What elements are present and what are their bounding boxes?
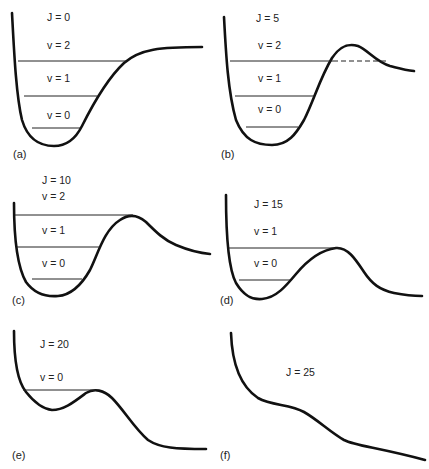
panel-label-b: (b) bbox=[221, 148, 234, 160]
panel-label-d: (d) bbox=[220, 294, 233, 306]
panel-label-c: (c) bbox=[12, 294, 25, 306]
v-label-a-2: v = 2 bbox=[47, 39, 70, 51]
v-label-b-1: v = 1 bbox=[258, 72, 281, 84]
v-label-c-2: v = 2 bbox=[42, 190, 65, 202]
v-label-a-0: v = 0 bbox=[47, 109, 70, 121]
j-label-f: J = 25 bbox=[286, 366, 315, 378]
v-label-c-1: v = 1 bbox=[42, 224, 65, 236]
v-label-b-2: v = 2 bbox=[258, 39, 281, 51]
panel-d: J = 15 v = 1 v = 0 (d) bbox=[220, 195, 422, 306]
v-label-c-0: v = 0 bbox=[42, 257, 65, 269]
potential-curve-c bbox=[14, 203, 210, 296]
v-label-e-0: v = 0 bbox=[40, 371, 63, 383]
panel-e: J = 20 v = 0 (e) bbox=[12, 331, 206, 461]
potential-curve-b bbox=[224, 17, 414, 145]
potential-curves-figure: J = 0 v = 2 v = 1 v = 0 (a) J = 5 v = 2 … bbox=[0, 0, 429, 469]
panel-label-a: (a) bbox=[13, 148, 26, 160]
potential-curve-d bbox=[226, 195, 422, 299]
potential-curve-a bbox=[12, 13, 202, 146]
v-label-d-1: v = 1 bbox=[254, 225, 277, 237]
panel-c: J = 10 v = 2 v = 1 v = 0 (c) bbox=[12, 174, 210, 306]
j-label-b: J = 5 bbox=[256, 12, 279, 24]
potential-curve-f bbox=[231, 333, 425, 460]
v-label-d-0: v = 0 bbox=[254, 257, 277, 269]
panel-f: J = 25 (f) bbox=[220, 333, 425, 461]
panel-label-f: (f) bbox=[220, 449, 230, 461]
panel-a: J = 0 v = 2 v = 1 v = 0 (a) bbox=[12, 11, 202, 160]
panel-b: J = 5 v = 2 v = 1 v = 0 (b) bbox=[221, 12, 414, 160]
j-label-d: J = 15 bbox=[254, 198, 283, 210]
j-label-a: J = 0 bbox=[47, 11, 70, 23]
j-label-e: J = 20 bbox=[40, 338, 69, 350]
panel-label-e: (e) bbox=[12, 449, 25, 461]
v-label-b-0: v = 0 bbox=[258, 103, 281, 115]
j-label-c: J = 10 bbox=[42, 174, 71, 186]
v-label-a-1: v = 1 bbox=[47, 72, 70, 84]
